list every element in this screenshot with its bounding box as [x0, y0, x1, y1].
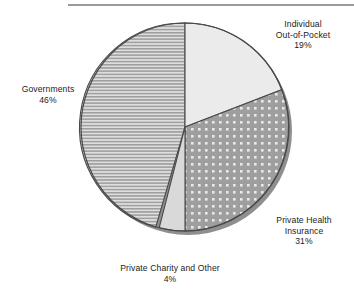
chart-area: Individual Out-of-Pocket 19% Governments… — [0, 0, 354, 299]
label-line-2: Out-of-Pocket — [255, 30, 351, 41]
label-line-1: Governments — [2, 84, 94, 95]
label-line-1: Individual — [255, 19, 351, 30]
label-percent: 19% — [255, 40, 351, 51]
label-percent: 46% — [2, 95, 94, 106]
label-percent: 31% — [258, 236, 350, 247]
slice-label-private-charity-and-other: Private Charity and Other 4% — [96, 263, 244, 284]
label-percent: 4% — [96, 274, 244, 285]
label-line-1: Private Charity and Other — [96, 263, 244, 274]
label-line-2: Insurance — [258, 226, 350, 237]
slice-label-governments: Governments 46% — [2, 84, 94, 105]
slice-label-private-health-insurance: Private Health Insurance 31% — [258, 215, 350, 247]
slice-label-individual-out-of-pocket: Individual Out-of-Pocket 19% — [255, 19, 351, 51]
pie-chart-figure: Individual Out-of-Pocket 19% Governments… — [0, 0, 354, 299]
label-line-1: Private Health — [258, 215, 350, 226]
